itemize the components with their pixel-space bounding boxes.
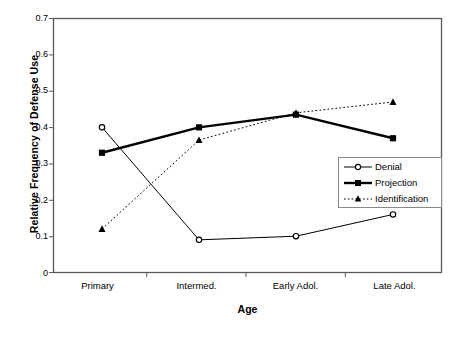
- plot-frame: [54, 19, 442, 273]
- data-point-identification-3: [390, 98, 397, 105]
- chart-figure: Relative Frequency of Defense Use 0.7 0.…: [0, 0, 461, 337]
- data-point-denial-3: [390, 212, 395, 217]
- legend-marker-open-circle: [343, 160, 373, 174]
- data-point-projection-0: [99, 150, 105, 156]
- legend-label-denial: Denial: [375, 162, 402, 172]
- data-point-denial-1: [196, 237, 201, 242]
- legend-marker-filled-square: [343, 176, 373, 190]
- x-tick-marks: [147, 273, 346, 278]
- series-projection: [99, 112, 396, 156]
- data-point-projection-1: [196, 124, 202, 130]
- legend-item-projection: Projection: [343, 175, 441, 191]
- series-line-projection: [102, 115, 393, 153]
- data-point-identification-0: [99, 225, 106, 232]
- legend-label-projection: Projection: [375, 178, 417, 188]
- legend-label-identification: Identification: [375, 194, 428, 204]
- data-point-denial-2: [293, 234, 298, 239]
- data-point-projection-3: [390, 135, 396, 141]
- data-point-identification-1: [196, 136, 203, 143]
- legend: Denial Projection Identification: [338, 157, 442, 208]
- legend-item-denial: Denial: [343, 159, 441, 175]
- legend-marker-filled-triangle: [343, 192, 373, 206]
- legend-item-identification: Identification: [343, 191, 441, 207]
- y-tick-marks: [49, 19, 54, 273]
- data-point-denial-0: [99, 125, 104, 130]
